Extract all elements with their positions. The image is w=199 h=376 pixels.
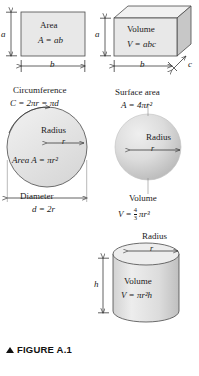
rectangle-area-label: Area bbox=[40, 21, 58, 30]
circle-radius-symbol: r bbox=[62, 138, 65, 146]
sphere-surface-area-formula: A = 4πr² bbox=[121, 101, 152, 110]
figure-caption-text: FIGURE A.1 bbox=[17, 344, 72, 355]
geometry-formulas-diagram bbox=[0, 0, 199, 344]
cylinder-radius-symbol: r bbox=[150, 245, 153, 253]
sphere-volume-lead: V = bbox=[118, 210, 132, 219]
circle-diameter-formula: d = 2r bbox=[32, 205, 55, 214]
rectangle-area-formula: A = ab bbox=[38, 36, 63, 45]
cylinder-volume-label: Volume bbox=[124, 277, 152, 286]
circle-circumference-formula: C = 2πr = πd bbox=[10, 99, 59, 108]
sphere-volume-fraction: 4 3 bbox=[134, 207, 137, 222]
figure-caption: FIGURE A.1 bbox=[6, 344, 72, 355]
box-depth-label: c bbox=[188, 60, 192, 69]
circle-diameter-label: Diameter bbox=[20, 192, 53, 201]
circle-area-formula: Area A = πr² bbox=[12, 156, 58, 165]
fraction-denominator: 3 bbox=[134, 215, 137, 222]
sphere-volume-label: Volume bbox=[129, 194, 157, 203]
cylinder-radius-label: Radius bbox=[142, 232, 167, 241]
circle-circumference-label: Circumference bbox=[13, 86, 66, 95]
sphere-radius-symbol: r bbox=[151, 145, 154, 153]
sphere-volume-formula: V = 4 3 πr³ bbox=[118, 207, 150, 222]
triangle-marker-icon bbox=[6, 347, 14, 353]
box-volume-formula: V = abc bbox=[127, 40, 156, 49]
sphere-volume-tail: πr³ bbox=[139, 210, 150, 219]
box-volume-label: Volume bbox=[127, 25, 155, 34]
box-width-label: b bbox=[140, 60, 145, 69]
box-height-label: a bbox=[95, 30, 100, 39]
sphere-radius-label: Radius bbox=[146, 133, 171, 142]
figure-a1: Area A = ab a b Volume V = abc a b c Cir… bbox=[0, 0, 199, 376]
cylinder-height-label: h bbox=[94, 280, 99, 289]
rectangle-width-label: b bbox=[50, 60, 55, 69]
cylinder-volume-formula: V = πr²h bbox=[121, 291, 152, 300]
sphere-surface-area-label: Surface area bbox=[115, 88, 160, 97]
sphere-figure bbox=[115, 103, 181, 194]
fraction-numerator: 4 bbox=[134, 207, 137, 214]
circle-radius-label: Radius bbox=[41, 126, 66, 135]
rectangle-height-label: a bbox=[1, 30, 6, 39]
